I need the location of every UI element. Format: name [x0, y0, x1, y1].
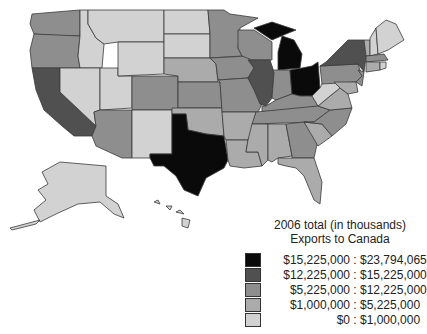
- state-alaska: [34, 162, 124, 222]
- state-montana: [88, 10, 164, 44]
- range-low: $1,000,000: [265, 298, 350, 312]
- state-florida: [278, 158, 322, 204]
- state-rhode-island: [380, 62, 386, 70]
- state-pennsylvania: [320, 64, 362, 84]
- legend-swatch-mid-gray: [245, 283, 261, 297]
- range-separator: :: [350, 313, 360, 327]
- legend-row: $15,225,000:$23,794,065: [245, 252, 415, 267]
- range-separator: :: [350, 253, 360, 267]
- state-oregon: [30, 34, 80, 68]
- state-alaska-islands: [10, 220, 40, 230]
- range-low: $5,225,000: [265, 283, 350, 297]
- legend-swatch-light-gray: [245, 298, 261, 312]
- legend-swatch-dark-gray: [245, 268, 261, 282]
- range-high: $23,794,065: [360, 253, 427, 267]
- state-connecticut: [366, 62, 380, 72]
- legend-row: $0:$1,000,000: [245, 312, 415, 327]
- state-arizona: [92, 110, 132, 158]
- range-separator: :: [350, 268, 360, 282]
- state-hawaii: [154, 200, 190, 228]
- map-legend: 2006 total (in thousands) Exports to Can…: [245, 218, 415, 327]
- state-kansas: [178, 82, 222, 108]
- legend-subtitle: Exports to Canada: [265, 232, 415, 246]
- state-maine: [376, 20, 404, 54]
- range-high: $15,225,000: [360, 268, 427, 282]
- legend-swatch-lightest-gray: [245, 313, 261, 327]
- range-low: $12,225,000: [265, 268, 350, 282]
- range-low: $0: [265, 313, 350, 327]
- state-south-dakota: [164, 34, 210, 58]
- legend-title: 2006 total (in thousands): [265, 218, 415, 232]
- legend-swatch-black: [245, 253, 261, 267]
- range-high: $12,225,000: [360, 283, 427, 297]
- state-washington: [30, 10, 80, 36]
- legend-row: $5,225,000:$12,225,000: [245, 282, 415, 297]
- state-michigan-lower: [278, 36, 302, 70]
- legend-row: $12,225,000:$15,225,000: [245, 267, 415, 282]
- range-separator: :: [350, 283, 360, 297]
- state-wyoming: [118, 42, 164, 76]
- range-separator: :: [350, 298, 360, 312]
- state-colorado: [132, 76, 178, 110]
- range-high: $5,225,000: [360, 298, 420, 312]
- legend-row: $1,000,000:$5,225,000: [245, 297, 415, 312]
- state-new-mexico: [132, 110, 172, 158]
- range-high: $1,000,000: [360, 313, 420, 327]
- state-north-dakota: [164, 10, 210, 34]
- range-low: $15,225,000: [265, 253, 350, 267]
